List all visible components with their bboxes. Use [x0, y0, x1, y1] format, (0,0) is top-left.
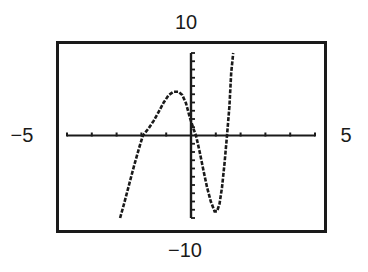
graph-screen: [0, 0, 368, 272]
axes: [67, 53, 315, 218]
